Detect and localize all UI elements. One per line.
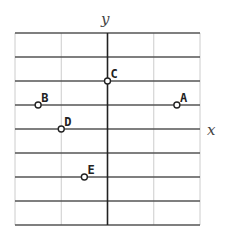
point-label: E (87, 163, 94, 177)
point-label: D (64, 115, 71, 129)
x-axis-label: x (207, 121, 216, 139)
point-label: A (180, 91, 188, 105)
coordinate-plane: y x ABCDE (0, 0, 226, 237)
y-axis-label: y (100, 10, 110, 28)
points-layer: ABCDE (35, 67, 188, 180)
point-label: B (41, 91, 48, 105)
point-label: C (111, 67, 118, 81)
